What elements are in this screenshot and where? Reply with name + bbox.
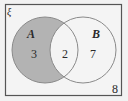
intersection-count: 2: [62, 47, 68, 61]
universal-set-label: ξ: [7, 6, 12, 18]
set-a-only-count: 3: [31, 47, 37, 61]
venn-diagram: ξ A B 3 2 7 8: [0, 0, 128, 101]
set-b-label: B: [91, 27, 100, 41]
set-a-label: A: [26, 27, 35, 41]
outside-count: 8: [112, 82, 118, 96]
set-b-only-count: 7: [90, 47, 96, 61]
